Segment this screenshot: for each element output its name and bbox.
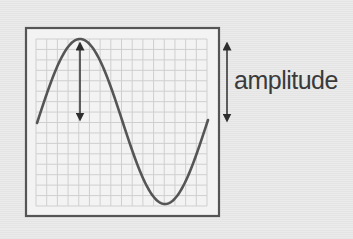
amplitude-diagram: [0, 0, 353, 229]
amplitude-label: amplitude: [234, 68, 338, 93]
